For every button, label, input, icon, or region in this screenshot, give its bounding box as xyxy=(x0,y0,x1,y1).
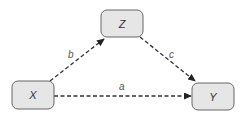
edge-label-a: a xyxy=(119,81,125,92)
edge-x-to-y: a xyxy=(54,81,191,96)
edge-line-c xyxy=(140,37,195,81)
node-x-label: X xyxy=(28,89,37,101)
edge-label-c: c xyxy=(169,49,174,60)
node-x: X xyxy=(12,81,54,109)
path-diagram: b c a Z X Y xyxy=(0,0,245,116)
node-z: Z xyxy=(101,10,143,37)
node-y-label: Y xyxy=(209,91,217,103)
edge-line-b xyxy=(50,39,104,81)
edge-z-to-y: c xyxy=(140,37,195,81)
edge-x-to-z: b xyxy=(50,39,104,81)
edge-label-b: b xyxy=(68,49,74,60)
node-y: Y xyxy=(192,83,234,110)
node-z-label: Z xyxy=(118,18,127,30)
